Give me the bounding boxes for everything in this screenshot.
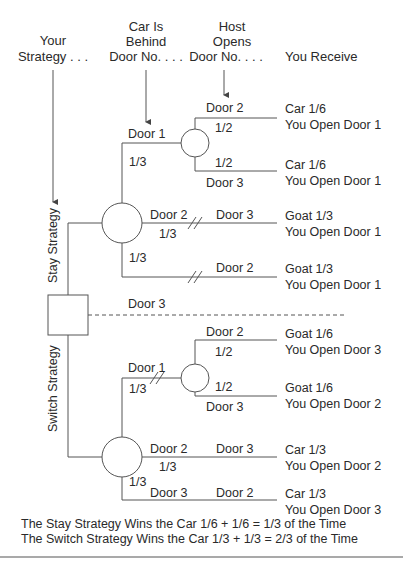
svg-text:You Open Door 2: You Open Door 2 <box>285 459 381 473</box>
chance-node-switch-host <box>181 364 209 392</box>
svg-text:Car Is: Car Is <box>129 19 164 34</box>
svg-text:Opens: Opens <box>213 34 252 49</box>
summary-switch: The Switch Strategy Wins the Car 1/3 + 1… <box>21 532 358 546</box>
summary-stay: The Stay Strategy Wins the Car 1/6 + 1/6… <box>21 517 346 531</box>
blocked-slash-icon <box>188 217 202 283</box>
svg-text:Car 1/6: Car 1/6 <box>285 102 326 116</box>
switch-strategy-label: Switch Strategy <box>46 344 60 432</box>
svg-text:You Open Door 2: You Open Door 2 <box>285 397 381 411</box>
outcome-switch-3: Car 1/3 You Open Door 2 <box>285 443 381 473</box>
svg-text:You Open Door 1: You Open Door 1 <box>285 118 381 132</box>
svg-text:You Open Door 1: You Open Door 1 <box>285 278 381 292</box>
stay-door1-label: Door 1 <box>128 127 166 141</box>
svg-text:Goat 1/3: Goat 1/3 <box>285 209 333 223</box>
svg-text:Behind: Behind <box>126 34 166 49</box>
stay-host-upper-prob: 1/2 <box>215 121 232 135</box>
stay-door1-prob: 1/3 <box>129 155 146 169</box>
outcome-stay-1: Car 1/6 You Open Door 1 <box>285 102 381 132</box>
stay-host-upper-line <box>195 118 277 129</box>
header-car-behind: Car Is Behind Door No. . . . <box>109 19 183 64</box>
outcome-switch-1: Goat 1/6 You Open Door 3 <box>285 327 381 357</box>
decision-node-square <box>48 295 88 335</box>
svg-text:Your: Your <box>40 33 67 48</box>
stay-path <box>68 223 102 295</box>
chance-node-stay-host <box>181 129 209 157</box>
svg-text:You Open Door 1: You Open Door 1 <box>285 225 381 239</box>
switch-host-upper-label: Door 2 <box>206 325 244 339</box>
chance-node-switch <box>102 437 142 477</box>
svg-text:Car 1/3: Car 1/3 <box>285 487 326 501</box>
outcome-switch-2: Goat 1/6 You Open Door 2 <box>285 381 381 411</box>
svg-text:Door No. . . .: Door No. . . . <box>189 49 263 64</box>
svg-text:Strategy . . .: Strategy . . . <box>18 49 88 64</box>
switch-host-upper-prob: 1/2 <box>215 345 232 359</box>
outcome-switch-4: Car 1/3 You Open Door 3 <box>285 487 381 517</box>
switch-door3-label: Door 3 <box>150 486 188 500</box>
svg-text:Door No. . . .: Door No. . . . <box>109 49 183 64</box>
switch-path <box>68 335 102 457</box>
svg-text:You Open Door 1: You Open Door 1 <box>285 174 381 188</box>
svg-text:Goat 1/6: Goat 1/6 <box>285 381 333 395</box>
header-you-receive: You Receive <box>285 49 358 64</box>
header-host-opens: Host Opens Door No. . . . <box>189 19 263 64</box>
stay-door2-label: Door 2 <box>150 208 188 222</box>
switch-door2-host-label: Door 3 <box>216 442 254 456</box>
svg-text:Goat 1/6: Goat 1/6 <box>285 327 333 341</box>
decision-door3-label: Door 3 <box>128 297 166 311</box>
outcome-stay-3: Goat 1/3 You Open Door 1 <box>285 209 381 239</box>
switch-door1-label: Door 1 <box>128 361 166 375</box>
switch-door2-label: Door 2 <box>150 442 188 456</box>
svg-text:Car 1/6: Car 1/6 <box>285 158 326 172</box>
svg-text:Goat 1/3: Goat 1/3 <box>285 262 333 276</box>
stay-door2-host-label: Door 3 <box>216 208 254 222</box>
switch-door2-prob: 1/3 <box>159 460 176 474</box>
svg-text:Host: Host <box>219 19 246 34</box>
chance-node-stay <box>102 203 142 243</box>
switch-host-lower-line <box>195 392 277 396</box>
outcome-stay-2: Car 1/6 You Open Door 1 <box>285 158 381 188</box>
stay-door3-host-label: Door 2 <box>216 261 254 275</box>
header-your-strategy: Your Strategy . . . <box>18 33 88 64</box>
svg-text:Car 1/3: Car 1/3 <box>285 443 326 457</box>
stay-host-lower-line <box>195 157 277 171</box>
stay-host-lower-label: Door 3 <box>206 176 244 190</box>
svg-text:You Open Door 3: You Open Door 3 <box>285 503 381 517</box>
svg-text:You Open Door 3: You Open Door 3 <box>285 343 381 357</box>
stay-host-lower-prob: 1/2 <box>215 156 232 170</box>
stay-host-upper-label: Door 2 <box>206 101 244 115</box>
switch-host-lower-prob: 1/2 <box>215 380 232 394</box>
stay-door2-prob: 1/3 <box>159 227 176 241</box>
stay-door1-line <box>122 143 181 203</box>
stay-strategy-label: Stay Strategy <box>46 207 60 283</box>
switch-door3-host-label: Door 2 <box>216 486 254 500</box>
switch-host-upper-line <box>195 340 277 364</box>
monty-hall-decision-tree: Your Strategy . . . Car Is Behind Door N… <box>0 0 403 565</box>
stay-door3-prob: 1/3 <box>129 251 146 265</box>
outcome-stay-4: Goat 1/3 You Open Door 1 <box>285 262 381 292</box>
switch-host-lower-label: Door 3 <box>206 400 244 414</box>
switch-door1-prob: 1/3 <box>129 382 146 396</box>
switch-door3-prob: 1/3 <box>129 475 146 489</box>
